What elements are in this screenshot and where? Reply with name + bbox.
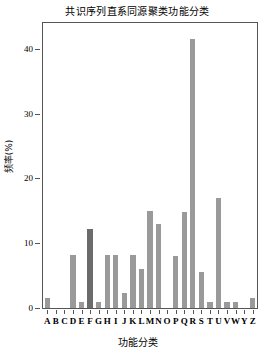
bar-S	[199, 272, 204, 308]
bar-P	[173, 256, 178, 308]
bar-N	[156, 224, 161, 308]
x-tick-label-A: A	[44, 316, 51, 326]
x-tick-label-W: W	[231, 316, 240, 326]
x-tick-label-O: O	[164, 316, 171, 326]
bar-K	[130, 255, 135, 308]
bar-W	[233, 302, 238, 308]
y-tick-mark	[35, 308, 40, 309]
bar-M	[147, 211, 152, 308]
x-tick-label-V: V	[224, 316, 231, 326]
x-tick-label-F: F	[87, 316, 93, 326]
x-tick-label-Q: Q	[181, 316, 188, 326]
x-tick-mark	[82, 310, 83, 314]
y-tick-mark	[35, 243, 40, 244]
x-tick-label-J: J	[122, 316, 127, 326]
bar-A	[45, 298, 50, 308]
x-tick-mark	[244, 310, 245, 314]
x-tick-mark	[64, 310, 65, 314]
x-tick-mark	[107, 310, 108, 314]
x-tick-mark	[116, 310, 117, 314]
x-tick-mark	[193, 310, 194, 314]
x-tick-mark	[201, 310, 202, 314]
x-tick-label-D: D	[70, 316, 77, 326]
x-tick-mark	[141, 310, 142, 314]
x-tick-mark	[47, 310, 48, 314]
x-tick-label-P: P	[173, 316, 179, 326]
y-tick-label: 10	[24, 238, 33, 248]
y-axis-label: 频率(%)	[2, 127, 15, 187]
bar-series	[43, 23, 257, 308]
x-tick-mark	[236, 310, 237, 314]
bar-Z	[250, 298, 255, 308]
x-tick-mark	[150, 310, 151, 314]
x-tick-mark	[159, 310, 160, 314]
bar-T	[207, 302, 212, 308]
chart-figure: 共识序列直系同源聚类功能分类 010203040 频率(%) ABCDEFGHI…	[0, 0, 275, 358]
bar-L	[139, 269, 144, 308]
x-axis-label: 功能分类	[0, 334, 275, 349]
bar-G	[96, 302, 101, 308]
x-tick-label-M: M	[146, 316, 155, 326]
bar-I	[113, 255, 118, 308]
x-tick-mark	[253, 310, 254, 314]
x-tick-label-R: R	[190, 316, 197, 326]
x-tick-label-N: N	[155, 316, 162, 326]
x-tick-label-C: C	[61, 316, 68, 326]
y-tick-mark	[35, 114, 40, 115]
x-tick-label-G: G	[95, 316, 102, 326]
x-axis-ticks	[43, 310, 257, 315]
bar-R	[190, 39, 195, 308]
x-tick-label-K: K	[129, 316, 136, 326]
bar-F	[87, 229, 92, 308]
bar-J	[122, 293, 127, 308]
x-tick-mark	[218, 310, 219, 314]
x-tick-mark	[56, 310, 57, 314]
x-tick-mark	[210, 310, 211, 314]
y-tick-label: 40	[24, 44, 33, 54]
bar-H	[105, 255, 110, 308]
x-tick-label-H: H	[104, 316, 111, 326]
bar-Q	[182, 212, 187, 308]
x-tick-label-I: I	[114, 316, 118, 326]
x-tick-label-T: T	[207, 316, 213, 326]
x-tick-label-Z: Z	[250, 316, 256, 326]
x-tick-mark	[184, 310, 185, 314]
x-tick-mark	[124, 310, 125, 314]
x-tick-mark	[133, 310, 134, 314]
y-tick-label: 0	[29, 303, 34, 313]
bar-D	[70, 255, 75, 308]
x-tick-mark	[227, 310, 228, 314]
x-tick-label-L: L	[138, 316, 144, 326]
x-tick-mark	[90, 310, 91, 314]
bar-U	[216, 198, 221, 308]
y-tick-mark	[35, 178, 40, 179]
y-tick-mark	[35, 49, 40, 50]
x-tick-mark	[176, 310, 177, 314]
x-tick-label-S: S	[199, 316, 204, 326]
x-tick-label-E: E	[79, 316, 85, 326]
x-tick-label-Y: Y	[241, 316, 248, 326]
bar-E	[79, 302, 84, 308]
x-tick-mark	[73, 310, 74, 314]
y-tick-label: 20	[24, 173, 33, 183]
x-tick-label-B: B	[53, 316, 59, 326]
x-tick-mark	[99, 310, 100, 314]
x-tick-label-U: U	[215, 316, 222, 326]
x-axis-tick-labels: ABCDEFGHIJKLMNOPQRSTUVWYZ	[43, 316, 257, 330]
x-tick-mark	[167, 310, 168, 314]
y-tick-label: 30	[24, 109, 33, 119]
bar-V	[224, 302, 229, 308]
